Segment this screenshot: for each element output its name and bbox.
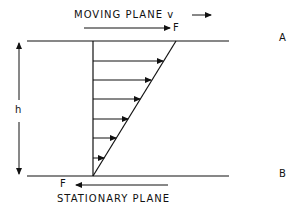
plane-a-label: A: [279, 33, 287, 43]
couette-flow-diagram: [0, 0, 303, 214]
stationary-plane-label: STATIONARY PLANE: [57, 194, 170, 204]
height-label: h: [15, 105, 22, 115]
velocity-vectors: [93, 61, 163, 158]
bottom-force-label: F: [60, 179, 67, 189]
plane-b-label: B: [279, 169, 287, 179]
top-force-label: F: [173, 23, 180, 33]
moving-plane-label: MOVING PLANE v: [74, 10, 174, 20]
